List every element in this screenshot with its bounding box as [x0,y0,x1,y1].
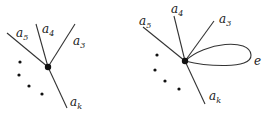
vertex [45,64,51,70]
edge-a3 [185,21,214,61]
label-e: e [254,54,261,68]
label-a3: a3 [73,34,85,50]
edge-a5 [143,27,185,61]
ellipsis-dot [177,87,180,90]
label-ak: ak [209,89,221,105]
label-a3: a3 [219,12,231,28]
vertex [182,58,188,64]
diagram-canvas: a5 a4 a3 ak a5 a4 a3 ak e [0,0,266,116]
ellipsis-dot [17,73,20,76]
ellipsis-dot [153,68,156,71]
edge-ak [185,61,205,104]
ellipsis-dot [18,60,21,63]
ellipsis-dot [27,84,30,87]
label-a5: a5 [139,14,151,30]
label-ak: ak [70,95,82,111]
right-diagram: a5 a4 a3 ak e [139,2,261,105]
edge-ak [48,67,67,108]
label-a4: a4 [171,2,183,18]
ellipsis-dot [155,53,158,56]
label-a4: a4 [42,22,54,38]
edge-a4 [174,16,185,61]
graph-diagrams: a5 a4 a3 ak a5 a4 a3 ak e [0,0,266,116]
ellipsis-dot [40,92,43,95]
label-a5: a5 [16,26,28,42]
left-diagram: a5 a4 a3 ak [7,22,85,111]
ellipsis-dot [163,79,166,82]
